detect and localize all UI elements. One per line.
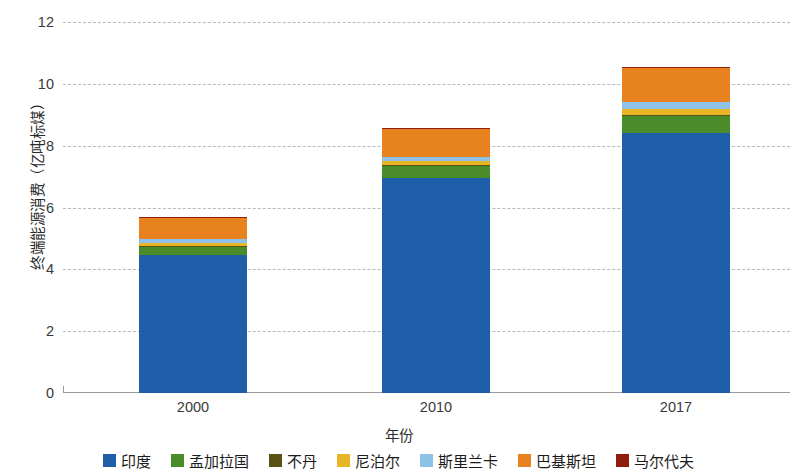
legend-swatch-icon bbox=[103, 454, 116, 467]
bar-segment bbox=[382, 165, 490, 166]
bar-segment bbox=[622, 67, 730, 102]
legend-item-斯里兰卡[interactable]: 斯里兰卡 bbox=[420, 450, 498, 471]
y-axis-tick-label: 0 bbox=[14, 385, 54, 401]
legend-swatch-icon bbox=[337, 454, 350, 467]
bar-segment bbox=[382, 157, 490, 161]
y-axis-tick-label: 8 bbox=[14, 138, 54, 154]
bar-2017 bbox=[622, 67, 730, 393]
bar-segment bbox=[382, 165, 490, 177]
legend-swatch-icon bbox=[616, 454, 629, 467]
y-axis-tick-label: 2 bbox=[14, 323, 54, 339]
legend-item-不丹[interactable]: 不丹 bbox=[269, 450, 317, 471]
y-axis-tick-label: 10 bbox=[14, 76, 54, 92]
bar-segment bbox=[139, 255, 247, 393]
bar-segment bbox=[622, 115, 730, 116]
bar-segment bbox=[382, 161, 490, 165]
bar-segment bbox=[622, 116, 730, 133]
x-axis-tick-label: 2000 bbox=[177, 399, 209, 415]
legend-swatch-icon bbox=[171, 454, 184, 467]
bar-segment bbox=[139, 239, 247, 243]
y-axis-tick-labels: 024681012 bbox=[10, 22, 54, 393]
legend-label: 孟加拉国 bbox=[189, 450, 249, 471]
plot-area bbox=[63, 22, 790, 393]
bar-2010 bbox=[382, 128, 490, 393]
legend-item-尼泊尔[interactable]: 尼泊尔 bbox=[337, 450, 400, 471]
legend-swatch-icon bbox=[518, 454, 531, 467]
y-axis-tick-label: 12 bbox=[14, 14, 54, 30]
y-axis-stub bbox=[63, 386, 64, 393]
gridline bbox=[63, 22, 790, 23]
legend-item-马尔代夫[interactable]: 马尔代夫 bbox=[616, 450, 694, 471]
chart-legend: 印度孟加拉国不丹尼泊尔斯里兰卡巴基斯坦马尔代夫 bbox=[0, 450, 797, 471]
bar-segment bbox=[382, 128, 490, 156]
bar-segment bbox=[139, 246, 247, 247]
legend-item-印度[interactable]: 印度 bbox=[103, 450, 151, 471]
legend-label: 巴基斯坦 bbox=[536, 450, 596, 471]
legend-item-巴基斯坦[interactable]: 巴基斯坦 bbox=[518, 450, 596, 471]
stacked-bar-chart: 终端能源消费（亿吨标煤） 024681012 年份 印度孟加拉国不丹尼泊尔斯里兰… bbox=[0, 0, 797, 474]
x-axis-title: 年份 bbox=[0, 424, 797, 445]
legend-label: 斯里兰卡 bbox=[438, 450, 498, 471]
legend-label: 印度 bbox=[121, 450, 151, 471]
bar-2000 bbox=[139, 217, 247, 393]
bar-segment bbox=[139, 243, 247, 246]
bar-segment bbox=[382, 178, 490, 393]
bar-segment bbox=[622, 102, 730, 109]
x-axis-tick-label: 2010 bbox=[420, 399, 452, 415]
bar-segment bbox=[622, 109, 730, 115]
x-axis-tick-label: 2017 bbox=[660, 399, 692, 415]
legend-label: 不丹 bbox=[287, 450, 317, 471]
legend-swatch-icon bbox=[269, 454, 282, 467]
legend-label: 尼泊尔 bbox=[355, 450, 400, 471]
y-axis-tick-label: 4 bbox=[14, 261, 54, 277]
legend-swatch-icon bbox=[420, 454, 433, 467]
bar-segment bbox=[139, 247, 247, 255]
bar-segment bbox=[139, 217, 247, 239]
legend-label: 马尔代夫 bbox=[634, 450, 694, 471]
y-axis-tick-label: 6 bbox=[14, 200, 54, 216]
bar-segment bbox=[622, 133, 730, 393]
legend-item-孟加拉国[interactable]: 孟加拉国 bbox=[171, 450, 249, 471]
